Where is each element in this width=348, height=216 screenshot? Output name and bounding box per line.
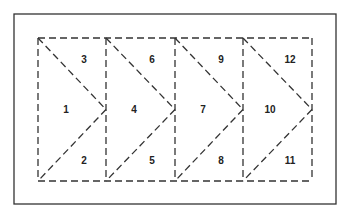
triangle-label-12: 12 [284,54,296,65]
diagonal-up-2 [175,110,243,182]
triangle-label-11: 11 [285,155,296,166]
triangle-labels: 123456789101112 [63,54,296,166]
diagonal-down-0 [38,38,106,110]
triangle-label-2: 2 [81,155,87,166]
triangle-label-10: 10 [264,104,276,115]
triangle-label-9: 9 [218,54,224,65]
diagonal-up-0 [38,110,106,182]
triangle-label-7: 7 [200,104,206,115]
diagonal-down-3 [243,38,312,110]
triangle-label-8: 8 [218,155,224,166]
diagonal-down-2 [175,38,243,110]
triangle-label-6: 6 [149,54,155,65]
triangle-label-4: 4 [131,104,137,115]
diagonal-up-1 [106,110,175,182]
triangle-label-3: 3 [81,54,87,65]
diagonal-up-3 [243,110,312,182]
diagonal-down-1 [106,38,175,110]
triangle-label-1: 1 [63,104,69,115]
triangle-label-5: 5 [149,155,155,166]
triangle-tiling-diagram: 123456789101112 [0,0,348,216]
